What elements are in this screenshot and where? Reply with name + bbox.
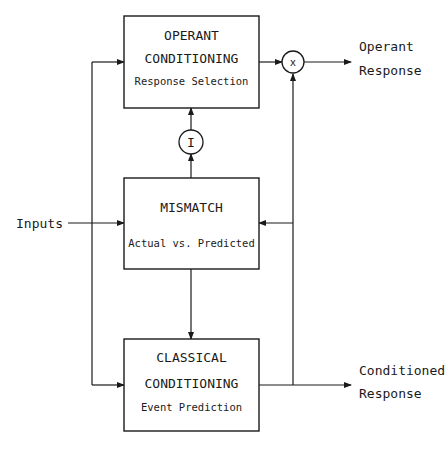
operant-conditioning-block: OPERANT CONDITIONING Response Selection [124,16,259,108]
classical-title-line1: CLASSICAL [156,350,227,365]
classical-subtitle: Event Prediction [141,401,242,413]
classical-title-line2: CONDITIONING [145,376,239,391]
operant-title-line1: OPERANT [164,28,219,43]
block-diagram: OPERANT CONDITIONING Response Selection … [0,0,445,449]
classical-conditioning-block: CLASSICAL CONDITIONING Event Prediction [124,339,259,431]
operant-title-line2: CONDITIONING [145,51,239,66]
mismatch-subtitle: Actual vs. Predicted [128,237,254,249]
operant-response-label-line1: Operant [359,39,414,54]
conditioned-response-label-line2: Response [359,386,422,401]
mismatch-block: MISMATCH Actual vs. Predicted [124,178,259,269]
inhibitor-symbol: I [187,135,195,150]
inputs-label: Inputs [16,216,63,231]
conditioned-response-label-line1: Conditioned [359,363,445,378]
operant-subtitle: Response Selection [135,75,249,87]
multiplier-node: x [282,51,304,73]
operant-response-label-line2: Response [359,63,422,78]
mismatch-title: MISMATCH [160,200,223,215]
inhibitor-node: I [179,130,203,154]
multiply-icon: x [290,56,296,68]
